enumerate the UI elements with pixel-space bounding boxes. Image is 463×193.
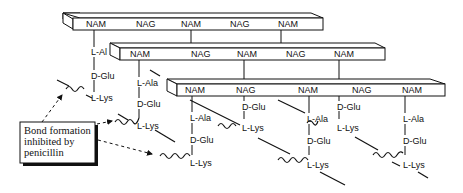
callout-line-2: inhibited by (24, 136, 75, 147)
callout-line-3: penicillin (24, 147, 64, 158)
sugar-label: NAM (185, 85, 205, 95)
amino-acid: D-Glu (403, 136, 427, 146)
amino-acid: D-Glu (190, 135, 214, 145)
sugar-label: NAG (191, 49, 211, 59)
amino-acid: L-Lys (337, 123, 359, 133)
sugar-label: NAM (86, 19, 106, 29)
sugar-label: NAM (130, 49, 150, 59)
sugar-label: NAM (278, 19, 298, 29)
amino-acid: D-Glu (307, 136, 331, 146)
sugar-label: NAG (352, 85, 372, 95)
amino-acid: L-Lys (190, 158, 212, 168)
amino-acid: L-Lys (242, 123, 264, 133)
amino-acid: D-Glu (242, 102, 266, 112)
sugar-label: NAG (236, 85, 256, 95)
amino-acid: L-Lys (91, 93, 113, 103)
sugar-label: NAG (286, 49, 306, 59)
amino-acid: L-Lys (137, 121, 159, 131)
amino-acid: L-Al (91, 47, 107, 57)
penicillin-callout: Bond formation inhibited by penicillin (20, 122, 98, 166)
amino-acid: L-Ala (190, 113, 211, 123)
amino-acid: L-Ala (137, 78, 158, 88)
sugar-label: NAM (334, 49, 354, 59)
amino-acid: D-Glu (137, 99, 161, 109)
sugar-label: NAG (136, 19, 156, 29)
callout-line-1: Bond formation (24, 125, 92, 136)
amino-acid: L-Lys (307, 160, 329, 170)
sugar-label: NAG (230, 19, 250, 29)
amino-acid: D-Glu (337, 102, 361, 112)
amino-acid: L-Ala (403, 114, 424, 124)
peptidoglycan-diagram: NAM NAG NAM NAG NAM NAM NAG NAM NAG NAM … (0, 0, 463, 193)
sugar-label: NAM (237, 49, 257, 59)
amino-acid: L-Lys (403, 160, 425, 170)
amino-acid: D-Glu (91, 71, 115, 81)
sugar-label: NAM (181, 19, 201, 29)
sugar-label: NAM (298, 85, 318, 95)
sugar-label: NAM (402, 85, 422, 95)
